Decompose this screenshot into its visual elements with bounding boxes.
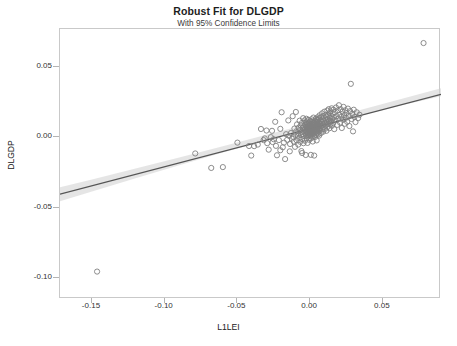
y-tick-label: -0.05 — [8, 202, 52, 211]
scatter-point — [276, 137, 281, 142]
y-tick-mark — [53, 136, 59, 137]
scatter-point — [283, 156, 288, 161]
scatter-point — [421, 40, 426, 45]
y-tick-mark — [53, 66, 59, 67]
scatter-point — [94, 269, 99, 274]
scatter-point — [293, 109, 298, 114]
scatter-point — [220, 164, 225, 169]
scatter-point — [281, 140, 286, 145]
scatter-points — [94, 40, 426, 274]
scatter-point — [274, 153, 279, 158]
chart-canvas: Robust Fit for DLGDP With 95% Confidence… — [0, 0, 457, 346]
scatter-point — [265, 141, 270, 146]
scatter-point — [264, 128, 269, 133]
scatter-point — [279, 110, 284, 115]
chart-subtitle: With 95% Confidence Limits — [0, 19, 457, 28]
scatter-point — [273, 119, 278, 124]
chart-title: Robust Fit for DLGDP — [0, 5, 457, 17]
scatter-point — [269, 128, 274, 133]
scatter-point — [266, 147, 271, 152]
y-tick-mark — [53, 277, 59, 278]
x-tick-mark — [164, 298, 165, 303]
scatter-point — [287, 141, 292, 146]
scatter-point — [347, 123, 352, 128]
scatter-point — [249, 153, 254, 158]
scatter-point — [209, 165, 214, 170]
scatter-point — [273, 143, 278, 148]
x-tick-mark — [309, 298, 310, 303]
scatter-point — [287, 149, 292, 154]
x-tick-mark — [382, 298, 383, 303]
x-tick-mark — [91, 298, 92, 303]
scatter-plot-svg — [60, 29, 441, 299]
scatter-point — [278, 126, 283, 131]
y-tick-label: 0.05 — [8, 61, 52, 70]
plot-area — [59, 28, 440, 298]
y-axis-label: DLGDP — [6, 125, 16, 185]
scatter-point — [286, 118, 291, 123]
scatter-point — [348, 81, 353, 86]
scatter-point — [308, 152, 313, 157]
x-axis-label: L1LEI — [0, 322, 457, 332]
scatter-point — [350, 129, 355, 134]
y-tick-label: -0.10 — [8, 272, 52, 281]
scatter-point — [294, 122, 299, 127]
x-tick-mark — [236, 298, 237, 303]
scatter-point — [258, 126, 263, 131]
y-tick-mark — [53, 207, 59, 208]
